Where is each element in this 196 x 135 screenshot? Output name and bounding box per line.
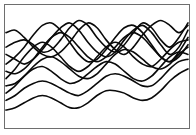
series-line-10 (6, 69, 188, 110)
curves-layer (0, 0, 196, 135)
line-chart-figure (0, 0, 196, 135)
series-group (6, 20, 188, 110)
